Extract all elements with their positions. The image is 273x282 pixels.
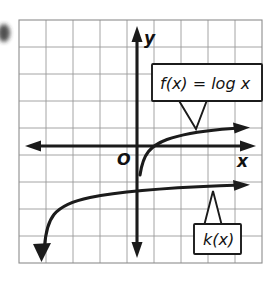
figure-page: f(x) = log x k(x) y x O [0,0,273,282]
coordinate-graph: f(x) = log x k(x) y x O [0,0,273,282]
callout-k-label: k(x) [203,230,234,249]
origin-label: O [117,150,131,169]
x-axis-label: x [236,151,249,171]
y-axis-label: y [144,28,156,48]
callout-f-label: f(x) = log x [160,74,251,93]
